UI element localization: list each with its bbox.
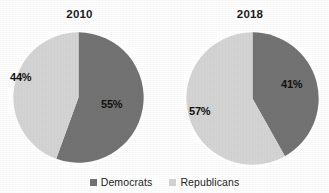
pie-2010-svg	[12, 31, 145, 164]
legend-swatch-republicans-icon	[169, 179, 176, 186]
pie-title-2010: 2010	[0, 8, 162, 20]
pie-2018	[185, 31, 320, 166]
legend-label-democrats: Democrats	[101, 176, 153, 188]
pie-label-2018-democrats: 41%	[281, 78, 302, 90]
pie-panel-2010: 2010 44% 55%	[0, 0, 165, 172]
pie-label-2010-republicans: 44%	[10, 71, 31, 83]
pie-chart-figure: 2010 44% 55% 2018 57% 41%	[0, 0, 329, 193]
chart-legend: Democrats Republicans	[0, 171, 329, 193]
pie-title-2018: 2018	[168, 8, 329, 20]
legend-item-republicans: Republicans	[169, 176, 239, 188]
pie-2018-svg	[185, 31, 320, 166]
legend-label-republicans: Republicans	[180, 176, 239, 188]
pie-label-2010-democrats: 55%	[101, 98, 122, 110]
pie-panel-2018: 2018 57% 41%	[165, 0, 329, 172]
legend-item-democrats: Democrats	[90, 176, 153, 188]
legend-swatch-democrats-icon	[90, 179, 97, 186]
pie-label-2018-republicans: 57%	[189, 105, 210, 117]
pie-2010	[12, 31, 145, 164]
